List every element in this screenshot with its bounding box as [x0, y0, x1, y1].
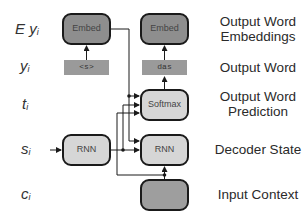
- left-word-label: <s>: [64, 62, 109, 71]
- label-input-context: Input Context: [202, 187, 307, 202]
- arrow-embed-to-rnn: [129, 96, 139, 141]
- var-embedding: E yi: [15, 20, 39, 37]
- var-word: yi: [20, 57, 30, 74]
- right-word-label: das: [142, 62, 187, 71]
- right-embed-label: Embed: [141, 23, 188, 33]
- label-output-word-embeddings: Output Word Embeddings: [202, 14, 307, 44]
- var-state: si: [21, 140, 31, 157]
- junction-dot: [127, 94, 131, 98]
- label-output-word-prediction: Output Word Prediction: [202, 89, 307, 119]
- arrow-embed-to-softmax: [110, 29, 139, 96]
- right-rnn-label: RNN: [141, 144, 188, 154]
- label-decoder-state: Decoder State: [202, 142, 307, 157]
- junction-dot: [163, 173, 167, 177]
- var-prediction: ti: [22, 95, 28, 112]
- left-rnn-label: RNN: [63, 144, 110, 154]
- label-output-word: Output Word: [202, 60, 307, 75]
- junction-dot: [121, 148, 125, 152]
- input-context-box: [141, 180, 188, 210]
- arrow-rnn-to-softmax: [123, 105, 139, 150]
- left-embed-label: Embed: [63, 23, 110, 33]
- var-context: ci: [21, 185, 31, 202]
- softmax-label: Softmax: [141, 99, 188, 109]
